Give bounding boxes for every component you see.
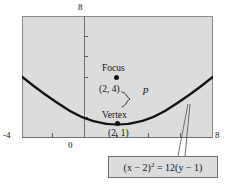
focus-coordinate: (2, 4) bbox=[99, 84, 120, 94]
vertex-label: Vertex bbox=[102, 110, 127, 120]
focus-label: Focus bbox=[102, 63, 125, 73]
origin-label: 0 bbox=[68, 141, 73, 150]
parabola-figure: 8 8 -4 0 Focus (2, 4) Vertex (2, 1) p (x… bbox=[0, 0, 234, 186]
vertex-point bbox=[115, 121, 120, 126]
vertex-coordinate: (2, 1) bbox=[108, 128, 129, 138]
equation-callout-box: (x − 2)2 = 12(y − 1) bbox=[108, 156, 218, 178]
x-axis-max-label: 8 bbox=[215, 131, 220, 140]
focal-distance-label: p bbox=[143, 84, 149, 94]
equation-text: (x − 2)2 = 12(y − 1) bbox=[124, 160, 203, 173]
equation-rhs: = 12(y − 1) bbox=[154, 163, 202, 174]
x-axis-min-label: -4 bbox=[3, 131, 11, 140]
focus-point bbox=[114, 75, 119, 80]
equation-lhs: (x − 2) bbox=[124, 163, 151, 174]
y-axis-max-label: 8 bbox=[78, 3, 83, 12]
